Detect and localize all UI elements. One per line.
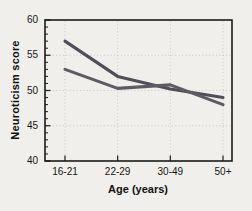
x-tick-label: 16-21: [39, 166, 91, 178]
y-tick-label: 55: [0, 49, 38, 61]
series-line-1: [65, 41, 223, 97]
chart-figure: Neuroticism score Age (years) 4045505560…: [0, 0, 252, 211]
series-line-2: [65, 69, 223, 104]
x-axis-title: Age (years): [108, 183, 168, 195]
x-tick-label: 30-49: [144, 166, 196, 178]
y-tick-label: 50: [0, 85, 38, 97]
y-tick-label: 60: [0, 14, 38, 26]
y-tick-label: 45: [0, 120, 38, 132]
plot-area-svg: [0, 0, 252, 211]
x-tick-label: 50+: [197, 166, 249, 178]
y-tick-label: 40: [0, 155, 38, 167]
x-tick-label: 22-29: [92, 166, 144, 178]
